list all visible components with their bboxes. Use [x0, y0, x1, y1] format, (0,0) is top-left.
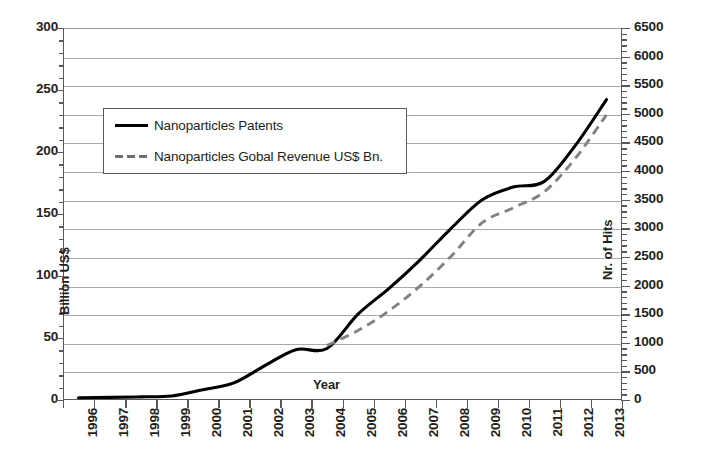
y-axis-left-minor-tick [59, 239, 64, 240]
x-axis-tick [156, 400, 157, 408]
x-axis-tick [343, 400, 344, 408]
y-axis-right-tick [621, 314, 630, 315]
legend-item-revenue: Nanoparticles Gobal Revenue US$ Bn. [115, 147, 383, 165]
legend-solid-line-icon [115, 119, 148, 131]
y-axis-right-minor-tick [621, 160, 627, 161]
y-axis-right-tick [621, 200, 630, 201]
y-axis-right-minor-tick [621, 348, 627, 349]
x-axis-tick-label: 2002 [271, 408, 286, 437]
y-axis-right-tick [621, 257, 630, 258]
y-axis-right-minor-tick [621, 383, 627, 384]
gridlines [64, 29, 621, 399]
x-axis-tick-label: 2013 [612, 408, 627, 437]
y-axis-left-minor-tick [59, 326, 64, 327]
y-axis-left-minor-tick [59, 350, 64, 351]
y-axis-right-minor-tick [621, 97, 627, 98]
x-axis-tick-label: 1996 [85, 408, 100, 437]
x-axis-tick-label: 2008 [457, 408, 472, 437]
y-axis-right-minor-tick [621, 194, 627, 195]
y-axis-left-tick [56, 28, 64, 29]
y-axis-right-tick [621, 371, 630, 372]
legend-item-patents: Nanoparticles Patents [115, 116, 283, 134]
gridline [64, 201, 621, 202]
y-axis-right-tick-label: 5000 [634, 105, 694, 120]
y-axis-right-tick-label: 2500 [634, 248, 694, 263]
y-axis-right-minor-tick [621, 131, 627, 132]
y-axis-right-tick-label: 4500 [634, 133, 694, 148]
y-axis-left-minor-tick [59, 363, 64, 364]
x-axis-tick-label: 2010 [519, 408, 534, 437]
chart-container: 300250200150100500 650060005500500045004… [0, 0, 704, 473]
y-axis-right-minor-tick [621, 268, 627, 269]
y-axis-right-minor-tick [621, 188, 627, 189]
y-axis-right-tick [621, 343, 630, 344]
y-axis-right-minor-tick [621, 137, 627, 138]
y-axis-left-tick [56, 338, 64, 339]
y-axis-left-minor-tick [59, 189, 64, 190]
x-axis-tick-label: 2006 [395, 408, 410, 437]
y-axis-right-minor-tick [621, 211, 627, 212]
y-axis-left-tick [56, 152, 64, 153]
y-axis-left-minor-tick [59, 40, 64, 41]
y-axis-right-minor-tick [621, 331, 627, 332]
x-axis-tick [187, 400, 188, 408]
y-axis-right-tick [621, 142, 630, 143]
y-axis-right-minor-tick [621, 297, 627, 298]
y-axis-right-minor-tick [621, 234, 627, 235]
y-axis-right-minor-tick [621, 274, 627, 275]
y-axis-left-minor-tick [59, 177, 64, 178]
y-axis-right-minor-tick [621, 39, 627, 40]
y-axis-left-minor-tick [59, 375, 64, 376]
gridline [64, 315, 621, 316]
x-axis-tick [405, 400, 406, 408]
gridline [64, 58, 621, 59]
y-axis-left-minor-tick [59, 202, 64, 203]
y-axis-right-minor-tick [621, 320, 627, 321]
y-axis-right-minor-tick [621, 154, 627, 155]
gridline [64, 258, 621, 259]
y-axis-right-minor-tick [621, 377, 627, 378]
y-axis-right-tick [621, 28, 630, 29]
legend-dashed-line-icon [115, 150, 148, 162]
y-axis-right-tick-label: 1000 [634, 334, 694, 349]
y-axis-right-minor-tick [621, 165, 627, 166]
x-axis-tick-label: 2007 [426, 408, 441, 437]
y-axis-right-minor-tick [621, 148, 627, 149]
x-axis-tick [560, 400, 561, 408]
y-axis-right-tick-label: 6500 [634, 19, 694, 34]
y-axis-right-title: Nr. of Hits [600, 220, 615, 280]
x-axis-tick [529, 400, 530, 408]
y-axis-right-tick [621, 171, 630, 172]
y-axis-right-minor-tick [621, 125, 627, 126]
x-axis-tick [467, 400, 468, 408]
y-axis-right-minor-tick [621, 68, 627, 69]
y-axis-right-tick-label: 3000 [634, 219, 694, 234]
y-axis-left-minor-tick [59, 78, 64, 79]
x-axis-tick [94, 400, 95, 408]
y-axis-left-minor-tick [59, 140, 64, 141]
y-axis-right-tick-label: 6000 [634, 48, 694, 63]
y-axis-right-minor-tick [621, 62, 627, 63]
y-axis-right-minor-tick [621, 354, 627, 355]
x-axis-title: Year [313, 377, 340, 392]
y-axis-right-tick [621, 114, 630, 115]
y-axis-left-tick-label: 300 [0, 19, 58, 34]
y-axis-right-tick-label: 5500 [634, 76, 694, 91]
y-axis-right-tick [621, 286, 630, 287]
x-axis-tick [311, 400, 312, 408]
y-axis-right-minor-tick [621, 245, 627, 246]
y-axis-left-minor-tick [59, 127, 64, 128]
x-axis-tick [374, 400, 375, 408]
x-axis-tick-label: 1999 [178, 408, 193, 437]
y-axis-right-minor-tick [621, 303, 627, 304]
legend-label-patents: Nanoparticles Patents [154, 118, 283, 133]
x-axis-tick [218, 400, 219, 408]
y-axis-left-tick-label: 150 [0, 205, 58, 220]
y-axis-right-minor-tick [621, 326, 627, 327]
y-axis-right-minor-tick [621, 183, 627, 184]
x-axis-tick [280, 400, 281, 408]
x-axis-tick [622, 400, 623, 408]
y-axis-right-minor-tick [621, 108, 627, 109]
y-axis-right-minor-tick [621, 205, 627, 206]
y-axis-right-minor-tick [621, 394, 627, 395]
